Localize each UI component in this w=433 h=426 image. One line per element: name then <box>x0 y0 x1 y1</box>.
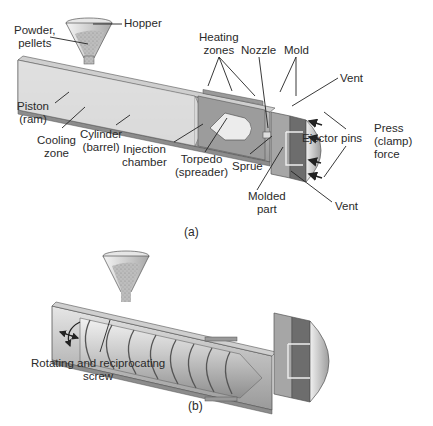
label-line: Rotating and reciprocating <box>31 357 165 370</box>
label-line: Press <box>374 122 412 135</box>
label-injection-chamber: Injection chamber <box>122 143 167 169</box>
label-molded-part: Molded part <box>248 190 286 216</box>
label-line: (clamp) <box>374 135 412 148</box>
label-line: (spreader) <box>175 166 228 179</box>
label-line: zone <box>37 147 76 160</box>
label-powder-pellets: Powder, pellets <box>14 24 56 50</box>
label-line: Piston <box>17 100 49 113</box>
mold-b <box>274 313 329 402</box>
label-cylinder-barrel: Cylinder (barrel) <box>80 128 122 154</box>
label-line: Injection <box>122 143 167 156</box>
label-line: zones <box>199 44 239 57</box>
label-mold: Mold <box>284 44 309 57</box>
label-line: part <box>248 203 286 216</box>
label-nozzle: Nozzle <box>241 44 276 57</box>
label-line: chamber <box>122 156 167 169</box>
label-rotating-screw: Rotating and reciprocating screw <box>31 357 165 383</box>
label-press-clamp-force: Press (clamp) force <box>374 122 412 161</box>
label-line: force <box>374 148 412 161</box>
label-piston-ram: Piston (ram) <box>17 100 49 126</box>
label-line: screw <box>31 370 165 383</box>
label-line: Cooling <box>37 134 76 147</box>
caption-b: (b) <box>188 399 203 413</box>
label-line: pellets <box>14 37 56 50</box>
label-line: (barrel) <box>80 141 122 154</box>
label-sprue: Sprue <box>232 160 263 173</box>
label-line: Powder, <box>14 24 56 37</box>
label-vent-bottom: Vent <box>335 200 358 213</box>
caption-a: (a) <box>184 225 199 239</box>
nozzle <box>263 132 271 138</box>
label-ejector-pins: Ejector pins <box>302 132 362 145</box>
label-line: Heating <box>199 31 239 44</box>
label-torpedo-spreader: Torpedo (spreader) <box>175 153 228 179</box>
label-line: Torpedo <box>175 153 228 166</box>
label-line: Molded <box>248 190 286 203</box>
figure-b <box>52 251 329 414</box>
label-heating-zones: Heating zones <box>199 31 239 57</box>
label-line: Cylinder <box>80 128 122 141</box>
label-line: (ram) <box>17 113 49 126</box>
label-cooling-zone: Cooling zone <box>37 134 76 160</box>
label-vent-top: Vent <box>340 72 363 85</box>
hopper-b <box>103 251 149 302</box>
label-hopper: Hopper <box>124 17 162 30</box>
